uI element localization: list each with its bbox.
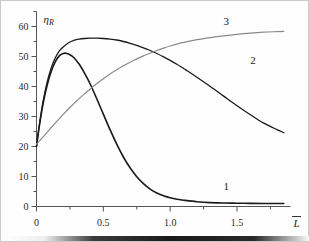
y-axis-label-subscript: R	[48, 18, 54, 27]
x-tick-label: 1.5	[231, 217, 244, 228]
curve-label-2: 2	[250, 54, 256, 66]
curve-3	[37, 31, 284, 144]
curve-1	[37, 53, 284, 203]
chart-figure: 010203040506000.51.01.5123ηRL	[1, 1, 309, 242]
y-tick-label: 10	[19, 171, 29, 182]
curve-label-3: 3	[224, 15, 230, 27]
curve-label-1: 1	[224, 180, 230, 192]
y-axis-label: ηR	[44, 13, 54, 28]
line-chart: 010203040506000.51.01.5123ηRL	[1, 1, 309, 242]
axis-ticks	[32, 12, 271, 212]
x-tick-label: 1.0	[164, 217, 177, 228]
scan-artifact-band	[1, 236, 309, 241]
x-axis-label: L	[292, 217, 299, 229]
curve-paths	[37, 31, 284, 203]
curve-2	[37, 38, 284, 146]
y-tick-label: 60	[19, 21, 29, 32]
x-tick-label: 0.5	[97, 217, 110, 228]
x-tick-label: 0	[34, 217, 39, 228]
y-tick-label: 0	[24, 201, 29, 212]
figure-frame: 010203040506000.51.01.5123ηRL	[0, 0, 309, 242]
y-tick-label: 30	[19, 111, 29, 122]
y-tick-label: 20	[19, 141, 29, 152]
y-tick-label: 50	[19, 51, 29, 62]
y-tick-label: 40	[19, 81, 29, 92]
